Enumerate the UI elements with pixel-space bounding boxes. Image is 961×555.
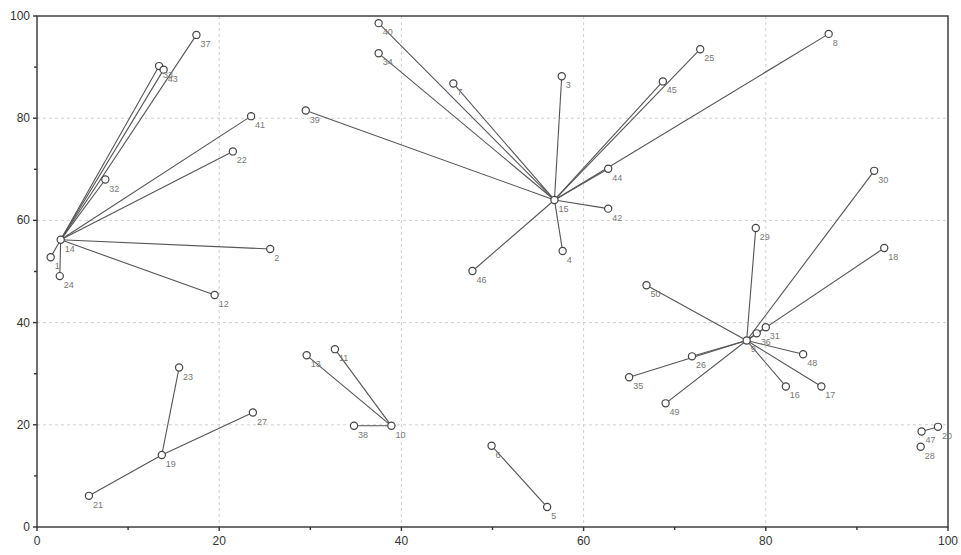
edge-line [162,413,253,455]
edge-line [162,368,179,455]
data-point-31 [762,324,769,331]
network-scatter-chart: 020406080100020406080100 123456789101112… [0,0,961,555]
point-label: 14 [65,244,75,254]
point-label: 45 [667,85,677,95]
point-label: 47 [926,435,936,445]
data-point-5 [544,503,551,510]
edges [51,23,938,507]
point-label: 16 [790,390,800,400]
data-point-46 [469,267,476,274]
point-label: 37 [200,39,210,49]
point-label: 25 [704,53,714,63]
data-point-30 [871,167,878,174]
x-tick-label: 20 [213,534,227,548]
point-label: 40 [383,27,393,37]
point-label: 3 [566,80,571,90]
point-label: 43 [168,74,178,84]
point-label: 12 [219,299,229,309]
point-label: 27 [257,417,267,427]
edge-line [61,70,164,240]
point-label: 31 [770,331,780,341]
point-label: 5 [551,511,556,521]
point-label: 38 [358,430,368,440]
point-label: 11 [339,353,348,363]
point-label: 10 [395,430,405,440]
data-point-49 [662,400,669,407]
point-label: 41 [255,120,265,130]
data-point-8 [825,30,832,37]
plot-frame [37,16,948,527]
point-label: 23 [183,372,193,382]
point-label: 28 [925,451,935,461]
data-point-11 [331,346,338,353]
point-label: 17 [825,390,835,400]
point-label: 35 [633,381,643,391]
data-point-50 [643,282,650,289]
data-point-7 [450,80,457,87]
edge-line [554,76,561,200]
x-tick-label: 40 [395,534,409,548]
point-label: 29 [760,232,770,242]
point-label: 44 [612,173,622,183]
data-point-47 [918,428,925,435]
point-label: 48 [807,358,817,368]
point-label: 13 [311,359,321,369]
edge-line [666,340,747,403]
data-point-28 [917,443,924,450]
point-label: 8 [833,38,838,48]
data-point-34 [375,50,382,57]
data-point-24 [56,272,63,279]
edge-line [306,111,555,200]
data-point-38 [350,422,357,429]
data-point-26 [688,353,695,360]
data-point-20 [934,423,941,430]
point-label: 36 [761,337,771,347]
point-labels: 1234567891011121314151617181920212223242… [55,27,952,521]
data-point-17 [818,383,825,390]
edge-line [61,240,271,249]
x-tick-label: 60 [577,534,591,548]
point-label: 21 [93,500,103,510]
data-point-27 [249,409,256,416]
data-point-48 [800,351,807,358]
point-label: 26 [696,360,706,370]
point-label: 49 [670,407,680,417]
point-label: 20 [942,431,952,441]
point-label: 1 [55,261,60,271]
edge-line [60,240,61,276]
point-label: 50 [650,289,660,299]
x-tick-label: 100 [938,534,958,548]
y-tick-label: 100 [10,9,30,23]
data-point-10 [388,422,395,429]
data-point-15 [551,196,558,203]
point-label: 18 [888,252,898,262]
data-point-19 [158,451,165,458]
edge-line [554,169,608,200]
data-point-45 [659,78,666,85]
data-point-36 [753,330,760,337]
edge-line [629,340,747,377]
edge-line [61,240,215,295]
edge-line [472,200,554,271]
y-tick-label: 0 [23,520,30,534]
data-point-21 [85,492,92,499]
x-tick-label: 0 [34,534,41,548]
edge-line [554,81,662,200]
edge-line [61,35,197,240]
data-points [47,20,942,511]
data-point-23 [176,364,183,371]
grid-lines [37,16,948,527]
edge-line [61,116,251,240]
data-point-41 [247,113,254,120]
edge-line [89,455,162,496]
data-point-40 [375,20,382,27]
data-point-3 [558,73,565,80]
data-point-12 [211,291,218,298]
data-point-32 [102,176,109,183]
edge-line [61,151,233,239]
edge-line [379,53,555,200]
point-label: 19 [166,459,176,469]
data-point-25 [697,46,704,53]
data-point-22 [229,148,236,155]
data-point-35 [626,374,633,381]
